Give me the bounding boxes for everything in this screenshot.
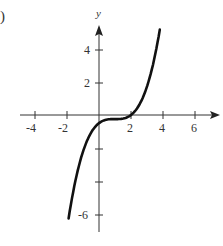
y-tick-label: 2 [84, 77, 90, 89]
x-tick-label: 2 [127, 122, 133, 134]
x-tick-label: -4 [26, 122, 36, 134]
x-tick-label: 6 [191, 122, 197, 134]
x-tick-label: -2 [58, 122, 68, 134]
y-axis-label: y [96, 8, 101, 19]
x-tick-label: 4 [159, 122, 165, 134]
y-tick-label: -6 [78, 209, 88, 221]
function-curve [69, 30, 160, 219]
y-tick-label: 4 [84, 44, 90, 56]
